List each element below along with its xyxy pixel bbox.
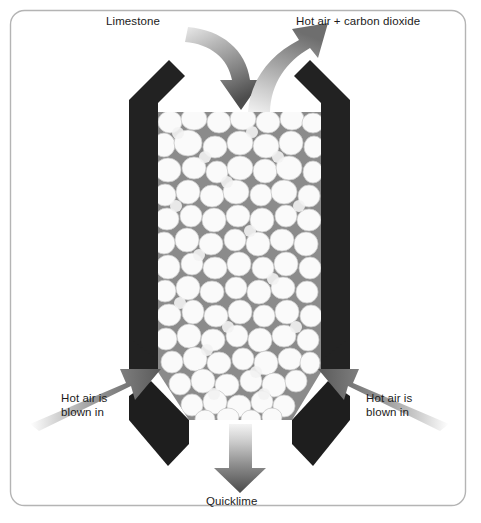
lime-kiln-diagram: Limestone Hot air + carbon dioxide Hot a… <box>0 0 481 523</box>
label-hot-air-blown-in-right: Hot air is blown in <box>366 391 412 419</box>
kiln-illustration <box>0 0 481 523</box>
limestone-bed <box>150 105 330 430</box>
label-hot-air-carbon-dioxide: Hot air + carbon dioxide <box>296 14 420 28</box>
label-hot-air-blown-in-left: Hot air is blown in <box>61 391 107 419</box>
label-quicklime: Quicklime <box>206 494 257 508</box>
label-limestone: Limestone <box>106 14 160 28</box>
